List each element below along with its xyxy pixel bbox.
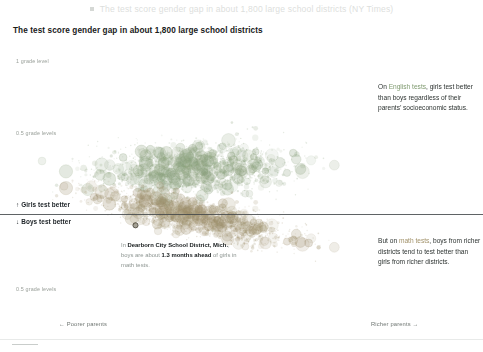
zero-label-girls-better: ↑ Girls test better [16, 201, 70, 208]
annotation-math: But on math tests, boys from richer dist… [378, 236, 482, 268]
y-axis-label-half-down: 0.5 grade levels [16, 286, 56, 292]
y-axis-label-half-up: 0.5 grade levels [16, 130, 56, 136]
footer-tick-mark [12, 344, 38, 345]
page-header-title: The test score gender gap in about 1,800… [100, 4, 394, 14]
annotation-english-before: On [378, 83, 389, 90]
annotation-math-before: But on [378, 237, 399, 244]
x-axis-label-richer: Richer parents → [371, 321, 419, 327]
annotation-district-callout: In Dearborn City School District, Mich.,… [121, 241, 237, 270]
footer-divider [0, 339, 483, 340]
scatter-plot: 1 grade level 0.5 grade levels 0.5 grade… [0, 40, 483, 330]
annotation-english: On English tests, girls test better than… [378, 82, 482, 114]
square-bullet-icon [90, 7, 94, 11]
annotation-math-highlight: math tests [399, 237, 429, 244]
annotation-english-highlight: English tests [389, 83, 426, 90]
page-title: The test score gender gap in about 1,800… [13, 26, 263, 35]
zero-label-boys-better: ↓ Boys test better [16, 218, 71, 225]
zero-baseline [0, 214, 483, 215]
callout-district-name: Dearborn City School District, Mich. [128, 242, 228, 248]
callout-value: 1.3 months ahead [162, 252, 212, 258]
x-axis-label-poorer: ← Poorer parents [59, 321, 107, 327]
page-header: The test score gender gap in about 1,800… [0, 0, 483, 18]
y-axis-label-1-grade: 1 grade level [16, 58, 49, 64]
